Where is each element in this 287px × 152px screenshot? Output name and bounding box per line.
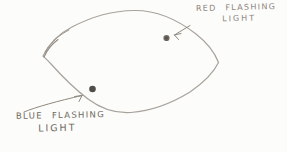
red-flashing-light-label: RED FLASHING LIGHT <box>196 1 277 25</box>
oval-outline <box>43 10 219 112</box>
oval-overstroke-2 <box>44 40 58 58</box>
blue-label-line2: LIGHT <box>38 121 105 135</box>
blue-flashing-light-dot <box>89 86 96 93</box>
red-label-line2: LIGHT <box>222 12 277 24</box>
sketch-canvas: RED FLASHING LIGHT BLUE FLASHING LIGHT <box>0 0 287 152</box>
blue-label-line1: BLUE FLASHING <box>16 108 105 122</box>
red-flashing-light-dot-core <box>165 36 168 39</box>
blue-flashing-light-label: BLUE FLASHING LIGHT <box>16 108 106 135</box>
